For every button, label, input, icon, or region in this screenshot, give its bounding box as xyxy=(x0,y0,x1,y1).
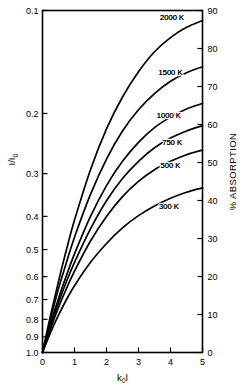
curve-label-750-k: 750 K xyxy=(162,138,182,147)
curve-label-500-k: 500 K xyxy=(161,161,181,170)
transmittance-absorption-chart: 012345 0.10.20.30.40.50.60.70.80.91.0 90… xyxy=(0,0,247,391)
y-tick-right-label: 40 xyxy=(208,196,218,206)
x-tick-label: 3 xyxy=(136,357,141,367)
y-tick-left-label: 1.0 xyxy=(26,348,39,358)
y-tick-right-label: 50 xyxy=(208,158,218,168)
y-tick-left-label: 0.4 xyxy=(26,212,39,222)
x-tick-label: 1 xyxy=(72,357,77,367)
x-tick-label: 2 xyxy=(104,357,109,367)
y-tick-right-label: 30 xyxy=(208,234,218,244)
y-tick-left-label: 0.5 xyxy=(26,245,39,255)
y-tick-left-label: 0.6 xyxy=(26,272,39,282)
x-tick-label: 5 xyxy=(200,357,205,367)
y-tick-left-label: 0.2 xyxy=(26,109,39,119)
y-tick-left-label: 0.1 xyxy=(26,6,39,16)
y-tick-right-label: 60 xyxy=(208,120,218,130)
x-tick-label: 4 xyxy=(168,357,173,367)
y-axis-right-title: % ABSORPTION xyxy=(227,133,238,211)
curve-label-1000-k: 1000 K xyxy=(157,111,181,120)
y-tick-right-label: 20 xyxy=(208,272,218,282)
y-tick-right-label: 70 xyxy=(208,82,218,92)
y-tick-left-label: 0.7 xyxy=(26,295,39,305)
y-tick-left-label: 0.8 xyxy=(26,315,39,325)
y-tick-right-label: 0 xyxy=(208,348,213,358)
y-tick-left-label: 0.9 xyxy=(26,332,39,342)
y-tick-right-label: 80 xyxy=(208,44,218,54)
x-tick-label: 0 xyxy=(40,357,45,367)
curve-label-1500-k: 1500 K xyxy=(158,68,182,77)
curve-label-300-k: 300 K xyxy=(159,202,179,211)
y-tick-right-label: 90 xyxy=(208,6,218,16)
y-tick-right-label: 10 xyxy=(208,310,218,320)
curve-label-2000-k: 2000 K xyxy=(160,13,184,22)
y-tick-left-label: 0.3 xyxy=(26,169,39,179)
figure-container: 012345 0.10.20.30.40.50.60.70.80.91.0 90… xyxy=(0,0,247,391)
